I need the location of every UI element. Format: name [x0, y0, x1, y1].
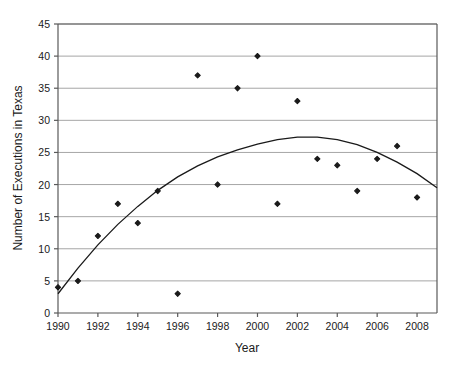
x-axis-tick-label: 1996 [166, 320, 190, 332]
y-axis-tick-label: 10 [38, 243, 50, 255]
x-axis-tick-label: 2004 [326, 320, 350, 332]
executions-scatter-chart: 051015202530354045 199019921994199619982… [0, 0, 458, 369]
y-axis-tick-label: 20 [38, 179, 50, 191]
chart-container: 051015202530354045 199019921994199619982… [0, 0, 458, 369]
y-axis-tick-label: 40 [38, 50, 50, 62]
y-axis-tick-label: 45 [38, 18, 50, 30]
x-axis-tick-label: 1992 [86, 320, 110, 332]
x-axis-tick-label: 2008 [405, 320, 429, 332]
x-axis-tick-label: 2000 [246, 320, 270, 332]
y-axis-tick-label: 30 [38, 114, 50, 126]
plot-area-background [58, 24, 437, 313]
x-axis-tick-label: 2002 [286, 320, 310, 332]
y-axis-tick-label: 5 [44, 275, 50, 287]
y-axis-tick-label: 0 [44, 307, 50, 319]
x-axis-tick-label: 1994 [126, 320, 150, 332]
x-axis-title: Year [235, 341, 259, 355]
x-axis-tick-label: 1990 [46, 320, 70, 332]
x-axis-tick-label: 2006 [365, 320, 389, 332]
y-axis-title: Number of Executions in Texas [11, 85, 25, 250]
x-axis-tick-label: 1998 [206, 320, 230, 332]
y-axis-tick-label: 15 [38, 211, 50, 223]
y-axis-tick-label: 25 [38, 146, 50, 158]
y-axis-tick-label: 35 [38, 82, 50, 94]
